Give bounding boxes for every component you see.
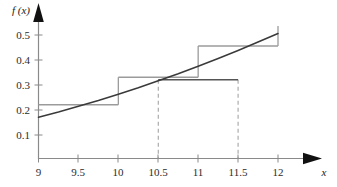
x-tick-label-1: 9.5 [71,166,85,178]
y-axis-arrow-icon [33,3,44,22]
axis-group [33,3,322,164]
y-tick-label-0: 0.5 [16,29,30,41]
x-tick-label-6: 12 [273,166,284,178]
x-tick-label-3: 10.5 [148,166,168,178]
x-tick-labels: 9 9.5 10 10.5 11 11.5 12 [36,166,284,178]
plot-canvas: 0.5 0.4 0.3 0.2 0.1 9 9.5 10 10.5 11 11.… [0,0,337,187]
step-approximation [39,26,279,105]
y-tick-label-3: 0.2 [16,104,30,116]
y-tick-label-2: 0.3 [16,79,30,91]
chart-figure: 0.5 0.4 0.3 0.2 0.1 9 9.5 10 10.5 11 11.… [0,0,337,187]
x-axis-arrow-icon [303,153,322,164]
y-tick-label-4: 0.1 [16,129,30,141]
x-axis-label: x [321,166,327,178]
x-tick-label-5: 11.5 [229,166,248,178]
y-axis-label: f (x) [12,4,30,17]
x-tick-label-2: 10 [113,166,125,178]
x-tick-label-4: 11 [193,166,204,178]
y-tick-labels: 0.5 0.4 0.3 0.2 0.1 [16,29,30,141]
dashed-guides [158,80,238,159]
x-tick-label-0: 9 [36,166,42,178]
y-tick-label-1: 0.4 [16,54,30,66]
